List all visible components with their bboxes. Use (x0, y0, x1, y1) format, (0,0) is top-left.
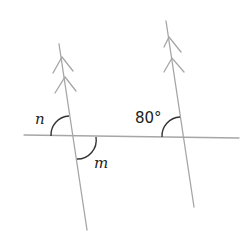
right-parallel-arrows-icon (164, 37, 184, 72)
angle-m-label: m (94, 154, 108, 172)
transversal-line (24, 135, 239, 138)
angle-80-arc (162, 117, 180, 137)
diagram-canvas: n m 80° (0, 0, 242, 238)
angle-80-label: 80° (135, 109, 162, 127)
angle-n-arc (51, 116, 69, 136)
left-parallel-arrows-icon (53, 57, 76, 93)
left-parallel-line (59, 44, 87, 230)
angle-n-label: n (35, 110, 45, 128)
right-parallel-line (166, 21, 194, 207)
